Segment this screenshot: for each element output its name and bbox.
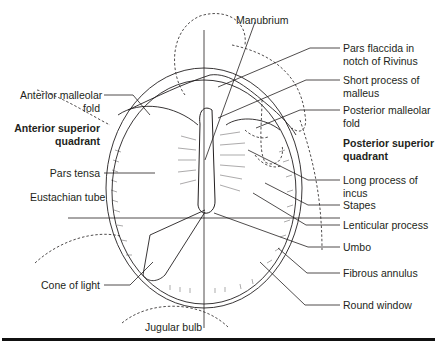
label-umbo: Umbo <box>343 241 371 254</box>
anterior-lower-outline <box>35 234 120 263</box>
label-pars-tensa: Pars tensa <box>20 167 100 180</box>
posterior-canal-outline <box>300 120 322 250</box>
cone-of-light-outline <box>143 210 205 281</box>
label-round-window: Round window <box>343 299 412 312</box>
label-long-process-incus: Long process of incus <box>343 174 418 199</box>
label-cone-of-light: Cone of light <box>20 279 100 292</box>
label-posterior-malleolar-fold: Posterior malleolar fold <box>343 104 431 129</box>
anterior-fold-boundary <box>118 106 198 125</box>
label-anterior-superior-quadrant: Anterior superior quadrant <box>10 122 100 147</box>
pars-flaccida-outline <box>128 75 296 135</box>
label-pars-flaccida: Pars flaccida in notch of Rivinus <box>343 42 418 67</box>
manubrium-axis-line <box>205 22 255 160</box>
label-eustachian-tube: Eustachian tube <box>30 191 105 204</box>
stapes-outline <box>245 130 282 167</box>
incus-long-process-outline <box>261 100 283 164</box>
leader-lines-right <box>214 48 340 305</box>
bottom-rule <box>2 338 435 341</box>
manubrium-handle <box>198 108 215 213</box>
label-short-process-malleus: Short process of malleus <box>343 74 419 99</box>
label-jugular-bulb: Jugular bulb <box>145 321 202 334</box>
label-fibrous-annulus: Fibrous annulus <box>343 267 418 280</box>
incus-body-outline <box>232 45 306 131</box>
label-anterior-malleolar-fold: Anterior malleolar fold <box>20 89 100 114</box>
label-posterior-superior-quadrant: Posterior superior quadrant <box>343 137 434 162</box>
label-stapes: Stapes <box>343 199 376 212</box>
posterior-fold-boundary <box>226 119 280 130</box>
label-lenticular-process: Lenticular process <box>343 219 428 232</box>
label-manubrium: Manubrium <box>236 14 289 27</box>
